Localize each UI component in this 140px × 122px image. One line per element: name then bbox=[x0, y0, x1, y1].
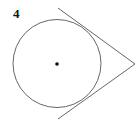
upper-tangent-line bbox=[58, 8, 135, 64]
geometry-figure: 4 bbox=[0, 0, 140, 122]
lower-tangent-line bbox=[58, 64, 135, 119]
diagram-canvas bbox=[0, 0, 140, 122]
center-point bbox=[55, 62, 59, 66]
